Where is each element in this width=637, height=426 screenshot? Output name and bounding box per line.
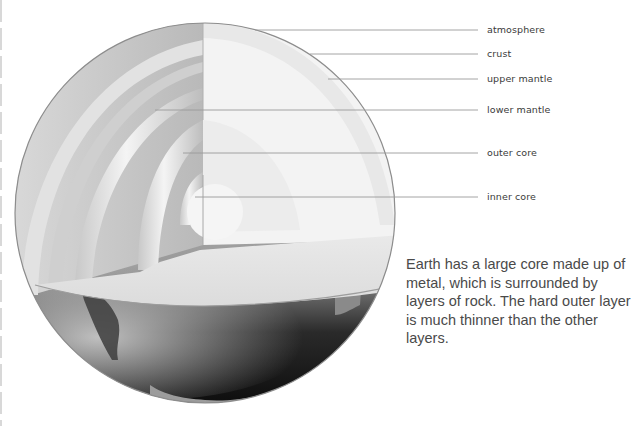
label-lower-mantle: lower mantle [487,104,551,116]
label-crust: crust [487,48,511,60]
label-upper-mantle: upper mantle [487,73,552,85]
label-atmosphere: atmosphere [487,24,545,36]
diagram-caption: Earth has a large core made up of metal,… [406,255,636,348]
label-outer-core: outer core [487,147,537,159]
earth-layers-diagram: atmosphere crust upper mantle lower mant… [0,0,637,426]
earth-cutaway-illustration [0,0,637,426]
label-inner-core: inner core [487,191,536,203]
